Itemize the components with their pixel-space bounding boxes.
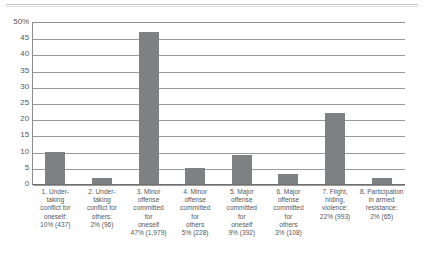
y-axis: 50%454035302520151050 [0,16,32,196]
x-axis-category-label-line: others [172,221,219,229]
x-axis-category-label-line: 3% (108) [265,229,312,237]
x-axis-category-label: 6. Majoroffensecommittedforothers3% (108… [265,188,312,237]
x-axis-category-label-line: others [265,221,312,229]
x-axis-category-label-line: conflict for [32,204,79,212]
bar [45,152,65,184]
x-axis-category-label-line: oneself [219,221,266,229]
x-axis-category-label: 4. Minoroffensecommittedforothers5% (228… [172,188,219,237]
bar [325,113,345,184]
x-axis-category-label: 7. Flight,hiding,violence:22% (993) [312,188,359,221]
x-axis-category-label-line: committed [219,204,266,212]
x-axis-category-label-line: for [125,213,172,221]
y-axis-tick-label: 15 [20,131,29,139]
x-axis-category-label-line: in armed [358,196,405,204]
y-axis-tick-label: 20 [20,115,29,123]
y-axis-tick-label: 45 [20,34,29,42]
x-axis-category-label-line: 5% (228) [172,229,219,237]
x-axis-category-label-line: 22% (993) [312,213,359,221]
y-axis-tick-label: 35 [20,67,29,75]
gridline [33,185,405,186]
x-axis-category-label-line: 1. Under- [32,188,79,196]
x-axis-category-label-line: 7. Flight, [312,188,359,196]
y-axis-tick-label: 50% [13,18,29,26]
x-axis-category-label: 1. Under-takingconflict foroneself:10% (… [32,188,79,229]
x-axis-category-label-line: 8. Participation [358,188,405,196]
x-axis-category-label-line: oneself [125,221,172,229]
x-axis-category-label-line: 2% (65) [358,213,405,221]
bar-chart: 50%454035302520151050 1. Under-takingcon… [0,0,424,256]
x-axis-category-label-line: 47% (1,979) [125,229,172,237]
x-axis-category-label-line: committed [125,204,172,212]
x-axis-category-label-line: 5. Major [219,188,266,196]
x-axis-category-label-line: hiding, [312,196,359,204]
x-axis-category-label-line: offense [125,196,172,204]
y-axis-tick-label: 30 [20,83,29,91]
bar [185,168,205,184]
x-axis-category-label-line: for [172,213,219,221]
x-axis-category-label-line: 2. Under- [79,188,126,196]
x-axis-category-label-line: offense [265,196,312,204]
bar [278,174,298,184]
y-axis-tick-label: 0 [25,180,29,188]
y-axis-tick-label: 5 [25,164,29,172]
x-axis-baseline [32,184,405,185]
x-axis-category-label-line: 6. Major [265,188,312,196]
x-axis-category-label-line: for [265,213,312,221]
x-axis-category-label: 8. Participationin armedresistance:2% (6… [358,188,405,221]
x-axis-category-label-line: resistance: [358,204,405,212]
x-axis-category-label-line: committed [265,204,312,212]
y-axis-tick-label: 25 [20,99,29,107]
x-axis-category-label: 2. Under-takingconflict forothers:2% (96… [79,188,126,229]
x-axis-category-label-line: offense [219,196,266,204]
x-axis-category-label-line: 3. Minor [125,188,172,196]
x-axis-category-label: 5. Majoroffensecommittedforoneself9% (39… [219,188,266,237]
x-axis-category-label-line: oneself: [32,213,79,221]
x-axis-labels: 1. Under-takingconflict foroneself:10% (… [32,188,405,254]
x-axis-category-label-line: violence: [312,204,359,212]
x-axis-category-label-line: 9% (392) [219,229,266,237]
x-axis-category-label-line: 4. Minor [172,188,219,196]
y-axis-tick-label: 40 [20,50,29,58]
x-axis-category-label-line: taking [32,196,79,204]
x-axis-category-label-line: for [219,213,266,221]
x-axis-category-label: 3. Minoroffensecommittedforoneself47% (1… [125,188,172,237]
x-axis-category-label-line: 10% (437) [32,221,79,229]
bar [139,32,159,184]
x-axis-category-label-line: committed [172,204,219,212]
x-axis-category-label-line: conflict for [79,204,126,212]
bars-layer [32,22,405,184]
x-axis-category-label-line: offense [172,196,219,204]
y-axis-tick-label: 10 [20,148,29,156]
bar [232,155,252,184]
x-axis-category-label-line: 2% (96) [79,221,126,229]
x-axis-category-label-line: taking [79,196,126,204]
x-axis-category-label-line: others: [79,213,126,221]
